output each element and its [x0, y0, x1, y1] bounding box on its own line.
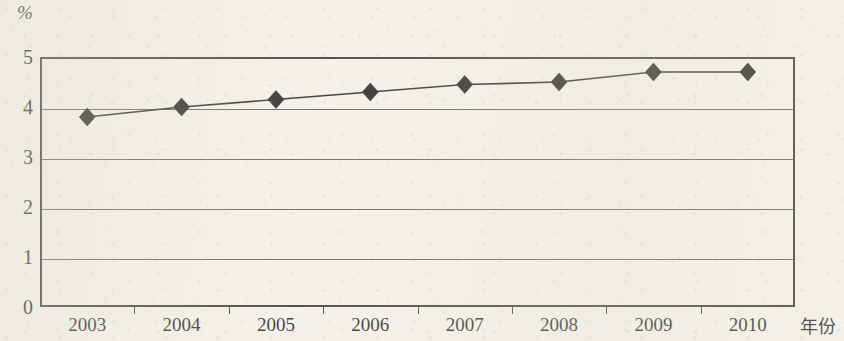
data-point-marker [740, 63, 756, 81]
line-chart-figure: % 012345 2003200420052006200720082009201… [0, 0, 844, 341]
data-point-marker [268, 91, 284, 109]
data-point-marker [79, 108, 95, 126]
series-markers [79, 63, 756, 126]
data-point-marker [645, 63, 661, 81]
data-point-marker [457, 76, 473, 94]
x-axis-title: 年份 [800, 312, 836, 338]
data-point-marker [174, 98, 190, 116]
data-point-marker [551, 73, 567, 91]
data-point-marker [362, 83, 378, 101]
data-series-layer [0, 0, 844, 341]
